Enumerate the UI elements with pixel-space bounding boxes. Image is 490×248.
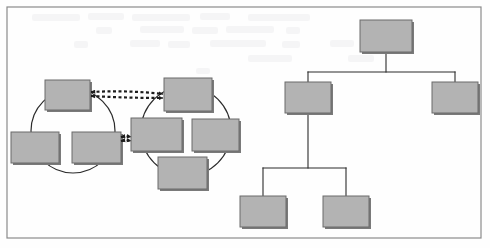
tree-level2-left-node[interactable] bbox=[240, 196, 286, 227]
diagram-figure: scanned-diagram bbox=[0, 0, 490, 248]
tree-level1-left-node[interactable] bbox=[285, 82, 331, 113]
tree-level1-right-node[interactable] bbox=[432, 82, 478, 113]
cluster-b-node-top[interactable] bbox=[164, 78, 212, 111]
tree-level2-right-node[interactable] bbox=[323, 196, 369, 227]
tree-root-node[interactable] bbox=[360, 20, 412, 52]
cluster-b-node-left[interactable] bbox=[131, 118, 182, 151]
cluster-a-node-top[interactable] bbox=[45, 80, 90, 110]
cluster-a-node-bottom-left[interactable] bbox=[11, 132, 59, 163]
diagram-canvas bbox=[0, 0, 490, 248]
cluster-a-node-bottom-right[interactable] bbox=[72, 132, 121, 163]
cluster-b-node-right[interactable] bbox=[192, 119, 239, 151]
cluster-b-node-bottom[interactable] bbox=[158, 157, 207, 189]
